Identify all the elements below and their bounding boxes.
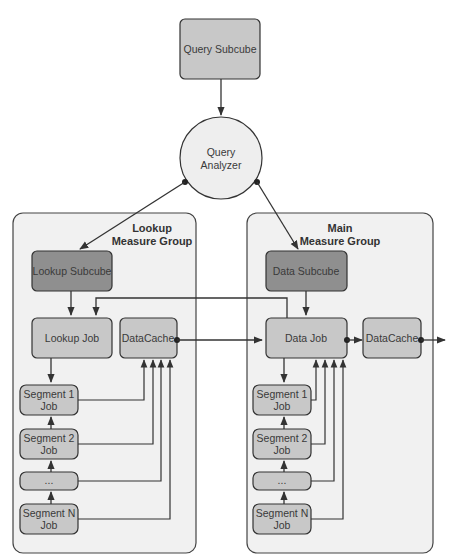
lookup-group-title: Lookup bbox=[132, 222, 172, 234]
main-group-title: Main bbox=[327, 222, 352, 234]
diagram-canvas: Lookup Measure Group Main Measure Group … bbox=[0, 0, 457, 559]
svg-text:Segment N: Segment N bbox=[256, 507, 309, 519]
svg-text:Job: Job bbox=[41, 400, 58, 412]
svg-text:Segment 1: Segment 1 bbox=[257, 388, 308, 400]
main-datacache-label: DataCache bbox=[366, 332, 419, 344]
svg-text:...: ... bbox=[278, 474, 287, 486]
svg-text:Job: Job bbox=[41, 519, 58, 531]
lookup-subcube-label: Lookup Subcube bbox=[33, 265, 112, 277]
lookup-group-title2: Measure Group bbox=[112, 235, 193, 247]
main-group-title2: Measure Group bbox=[300, 235, 381, 247]
data-job-label: Data Job bbox=[285, 332, 327, 344]
svg-text:Job: Job bbox=[41, 444, 58, 456]
svg-text:Segment 2: Segment 2 bbox=[24, 432, 75, 444]
query-analyzer-label2: Analyzer bbox=[201, 159, 242, 171]
data-subcube-label: Data Subcube bbox=[273, 265, 340, 277]
query-analyzer-node[interactable] bbox=[180, 117, 262, 199]
svg-text:Job: Job bbox=[274, 519, 291, 531]
svg-text:Segment 1: Segment 1 bbox=[24, 388, 75, 400]
query-analyzer-label1: Query bbox=[207, 146, 236, 158]
svg-text:...: ... bbox=[45, 474, 54, 486]
svg-text:Job: Job bbox=[274, 400, 291, 412]
lookup-datacache-label: DataCache bbox=[122, 332, 175, 344]
svg-text:Segment 2: Segment 2 bbox=[257, 432, 308, 444]
query-subcube-label: Query Subcube bbox=[184, 43, 257, 55]
svg-text:Segment N: Segment N bbox=[23, 507, 76, 519]
svg-text:Job: Job bbox=[274, 444, 291, 456]
lookup-job-label: Lookup Job bbox=[45, 332, 99, 344]
